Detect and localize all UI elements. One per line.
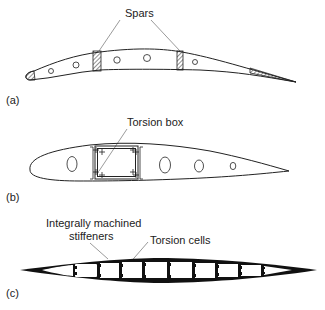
airfoil-outline-b (30, 143, 289, 181)
panel-label-b: (b) (6, 191, 19, 203)
lightening-hole (144, 55, 151, 62)
torsion-box-inner (98, 149, 136, 177)
rear-spar (177, 51, 183, 70)
torsion-box-label: Torsion box (127, 116, 184, 128)
torsion-box-leader-line (99, 129, 127, 171)
panel-b-airfoil: Torsion box (b) (6, 116, 289, 203)
airfoil-outline-a (26, 49, 296, 82)
lightening-hole (230, 162, 236, 169)
lightening-hole (114, 57, 120, 63)
torsion-box-outer (95, 146, 138, 179)
panel-a-airfoil: Spars (a) (6, 7, 296, 106)
panel-label-c: (c) (6, 287, 19, 299)
lightening-hole (67, 157, 77, 172)
lightening-hole (160, 157, 171, 173)
stiffeners-leader-line (90, 243, 108, 259)
wing-section-diagram: Spars (a) Torsion box (0, 0, 325, 310)
spar-leader-line-front (99, 20, 120, 51)
lightening-hole (49, 69, 54, 74)
front-spar (93, 51, 101, 71)
torsion-cells-label: Torsion cells (150, 234, 211, 246)
stiffeners-label-line1: Integrally machined (46, 217, 141, 229)
lightening-hole (73, 62, 79, 68)
spar-leader-line-rear (151, 20, 180, 51)
spars-label: Spars (125, 7, 154, 19)
stiffeners-label-line2: stiffeners (69, 230, 114, 242)
panel-label-a: (a) (6, 94, 19, 106)
lightening-hole (195, 160, 204, 172)
panel-c-airfoil: Integrally machined stiffeners Torsion c… (6, 217, 317, 299)
lightening-hole (193, 60, 198, 65)
